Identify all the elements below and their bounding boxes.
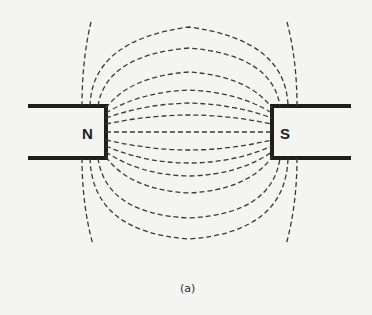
figure-caption: (a) (180, 282, 195, 295)
south-pole-label: S (280, 125, 290, 142)
field-lines (82, 22, 297, 245)
north-pole-label: N (82, 125, 93, 142)
north-magnet: N (28, 106, 106, 158)
magnetic-field-diagram: N S (a) (0, 0, 372, 315)
south-magnet: S (272, 106, 351, 158)
